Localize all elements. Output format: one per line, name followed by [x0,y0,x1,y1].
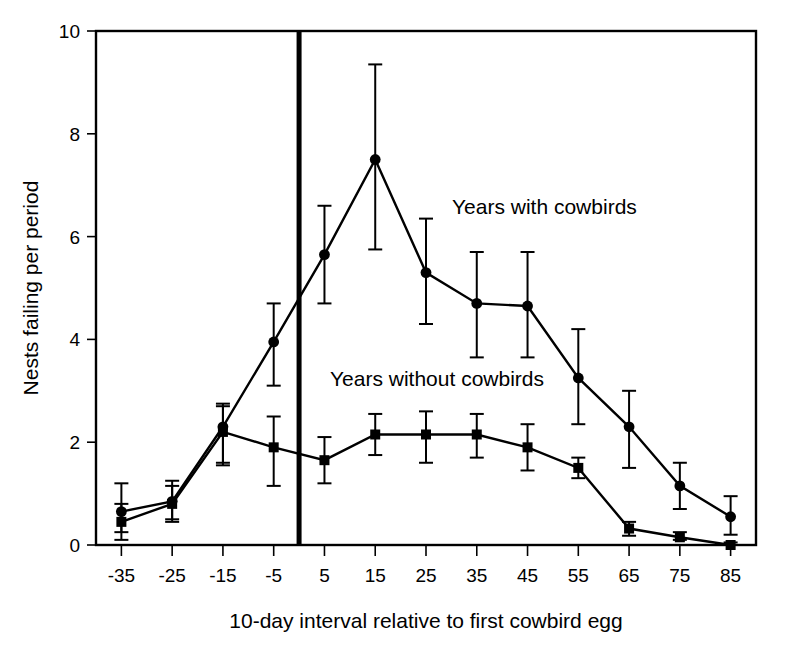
y-tick-label: 10 [59,21,80,42]
x-axis-ticks [121,545,730,556]
data-point-circle [268,337,279,348]
line-chart: 0246810 -35-25-15-551525354555657585 Nes… [0,0,788,649]
data-point-circle [522,301,533,312]
data-point-square [472,429,482,439]
y-axis-title: Nests failing per period [19,181,42,396]
data-point-square [675,532,685,542]
data-point-circle [116,506,127,517]
x-tick-label: 65 [619,565,640,586]
x-tick-label: 75 [669,565,690,586]
x-tick-label: 15 [365,565,386,586]
x-tick-label: -5 [265,565,282,586]
y-tick-label: 0 [69,535,80,556]
error-bars [114,64,737,545]
data-point-square [370,429,380,439]
y-axis-ticks [87,31,96,545]
data-point-square [726,540,736,550]
data-point-square [624,524,634,534]
y-tick-label: 4 [69,329,80,350]
x-axis-title: 10-day interval relative to first cowbir… [229,609,622,632]
x-tick-label: 25 [415,565,436,586]
x-axis-tick-labels: -35-25-15-551525354555657585 [108,565,742,586]
x-tick-label: 45 [517,565,538,586]
x-tick-label: -25 [158,565,185,586]
y-axis-tick-labels: 0246810 [59,21,81,556]
data-point-markers [116,154,736,550]
data-point-square [167,499,177,509]
data-point-circle [674,480,685,491]
y-tick-label: 2 [69,432,80,453]
data-point-circle [725,511,736,522]
data-point-square [421,429,431,439]
x-tick-label: 55 [568,565,589,586]
figure-container: 0246810 -35-25-15-551525354555657585 Nes… [0,0,788,649]
data-point-circle [370,154,381,165]
data-point-square [573,463,583,473]
x-tick-label: 85 [720,565,741,586]
data-point-circle [573,373,584,384]
data-point-circle [624,421,635,432]
series-lines [121,160,730,546]
x-tick-label: -15 [209,565,236,586]
data-point-circle [319,249,330,260]
data-point-square [319,455,329,465]
data-point-square [218,427,228,437]
x-tick-label: 5 [319,565,330,586]
data-point-square [523,442,533,452]
x-tick-label: 35 [466,565,487,586]
annotation-years-without-cowbirds: Years without cowbirds [330,367,544,390]
data-point-square [269,442,279,452]
annotation-years-with-cowbirds: Years with cowbirds [452,195,637,218]
data-point-square [116,517,126,527]
x-tick-label: -35 [108,565,135,586]
y-tick-label: 8 [69,124,80,145]
data-point-circle [421,267,432,278]
y-tick-label: 6 [69,227,80,248]
data-point-circle [471,298,482,309]
